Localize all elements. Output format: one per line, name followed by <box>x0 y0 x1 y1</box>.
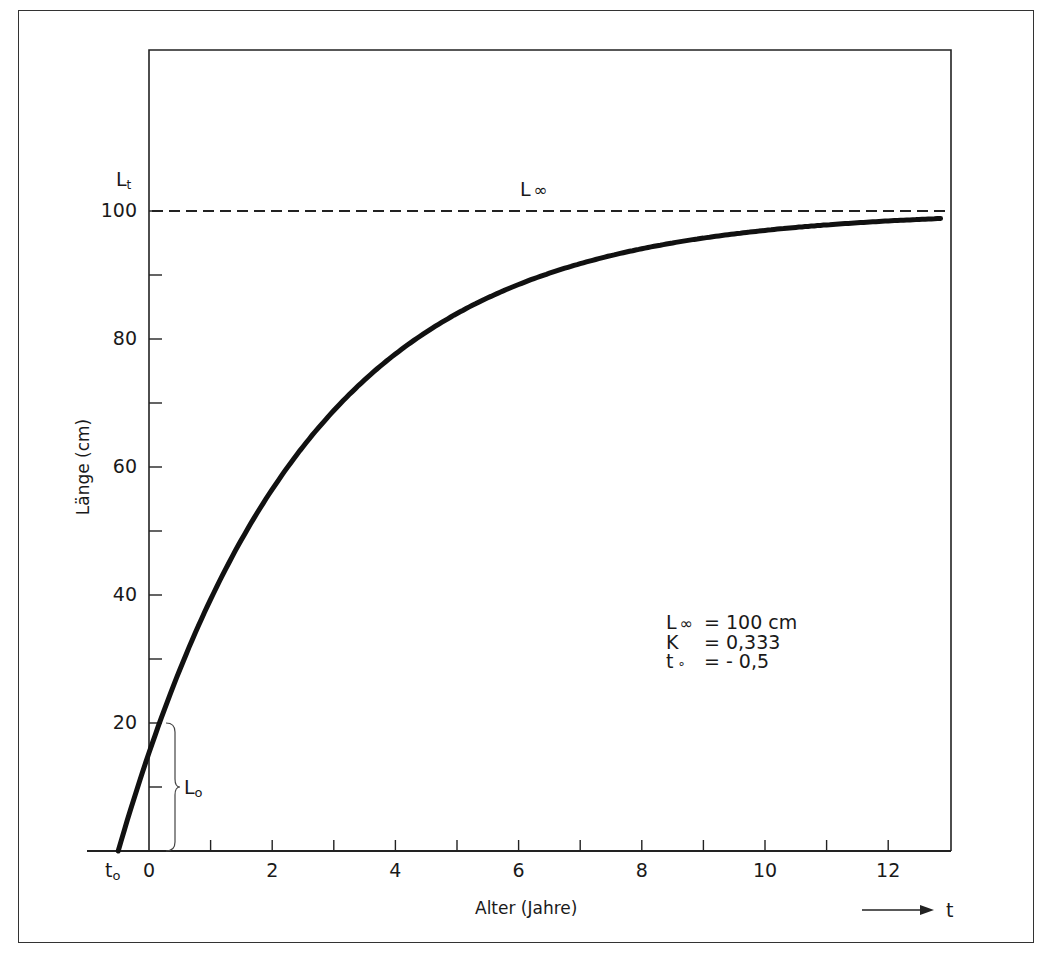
l0-brace <box>166 723 180 851</box>
asymptote-label: L∞ <box>520 180 548 199</box>
growth-curve <box>118 219 940 852</box>
l0-label: Lo <box>184 778 203 797</box>
parameter-box: L∞ = 100 cm K = 0,333 t∘ = - 0,5 <box>666 613 797 673</box>
plot-box <box>149 50 951 851</box>
param-symbol-main: L <box>666 611 677 633</box>
param-row-linf: L∞ = 100 cm <box>666 613 797 633</box>
infinity-symbol: ∞ <box>680 614 693 633</box>
l0-sub: o <box>195 785 203 800</box>
x-tick-label: 12 <box>868 861 908 880</box>
y-axis-title: Länge (cm) <box>73 419 93 516</box>
param-value: = 100 cm <box>704 613 797 633</box>
x-tick-label: 2 <box>252 861 292 880</box>
x-tick-label: 0 <box>129 861 169 880</box>
time-arrow-icon <box>862 905 934 915</box>
t0-label: to <box>105 861 120 880</box>
y-tick-label: 80 <box>87 329 137 348</box>
x-tick-label: 6 <box>499 861 539 880</box>
y-symbol-label: Lt <box>116 170 131 189</box>
y-tick-label: 100 <box>87 201 137 220</box>
param-symbol-main: t <box>666 650 673 672</box>
axis-ticks <box>149 211 888 851</box>
x-arrow-symbol: t <box>946 901 953 920</box>
param-row-t0: t∘ = - 0,5 <box>666 652 797 673</box>
y-tick-label: 60 <box>87 457 137 476</box>
param-symbol: L∞ <box>666 613 704 633</box>
x-tick-label: 4 <box>375 861 415 880</box>
x-tick-label: 8 <box>622 861 662 880</box>
infinity-symbol: ∞ <box>534 180 548 200</box>
param-value: = - 0,5 <box>704 652 769 673</box>
x-tick-label: 10 <box>745 861 785 880</box>
x-axis-title: Alter (Jahre) <box>475 898 577 918</box>
y-symbol-sub: t <box>127 178 132 192</box>
asymptote-main: L <box>520 178 531 200</box>
growth-chart <box>0 0 1052 961</box>
param-symbol-sub: ∘ <box>677 656 685 671</box>
t0-sub: o <box>112 868 120 883</box>
param-symbol: t∘ <box>666 652 704 673</box>
y-tick-label: 40 <box>87 585 137 604</box>
y-symbol-main: L <box>116 168 127 190</box>
l0-main: L <box>184 776 195 798</box>
y-tick-label: 20 <box>87 713 137 732</box>
